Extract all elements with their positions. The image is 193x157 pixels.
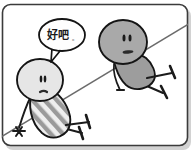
comic-illustration: 好吧 。 — [0, 0, 193, 157]
right-figure-eye-right — [129, 34, 132, 41]
left-figure-eye-left — [40, 76, 43, 83]
speech-bubble-punctuation: 。 — [72, 34, 78, 41]
left-figure-eye-right — [44, 76, 47, 83]
right-figure-head — [99, 20, 147, 64]
comic-panel: 好吧 。 — [0, 0, 193, 157]
right-figure-eye-left — [123, 34, 126, 41]
left-figure-mouth — [40, 91, 47, 92]
speech-bubble-text: 好吧 — [46, 28, 69, 42]
